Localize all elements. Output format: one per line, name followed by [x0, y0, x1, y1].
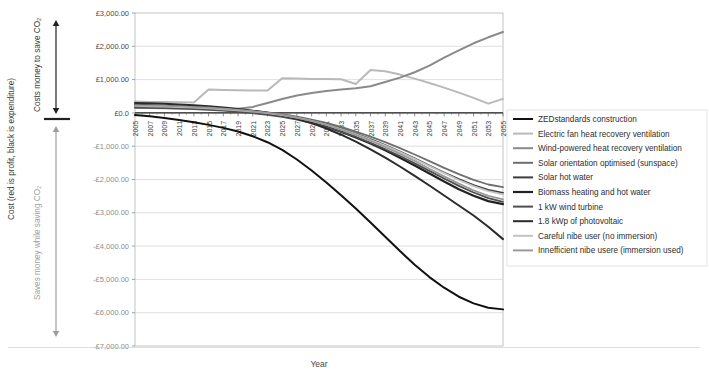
legend-label-4[interactable]: Solar hot water: [538, 173, 593, 182]
legend-label-5[interactable]: Biomass heating and hot water: [538, 188, 651, 197]
y-axis-tick-label: -£5,000.00: [93, 275, 129, 284]
down-zone-arrow-head-down: [53, 331, 60, 337]
x-axis-tick-label: 2053: [485, 121, 492, 137]
legend-label-0[interactable]: ZEDstandards construction: [538, 115, 637, 124]
x-axis-tick-label: 2051: [471, 121, 478, 137]
legend-label-9[interactable]: Innefficient nibe usere (immersion used): [538, 246, 684, 255]
y-axis-tick-label: -£7,000.00: [93, 342, 129, 351]
up-zone-arrow-head-down: [53, 108, 60, 114]
x-axis-tick-label: 2045: [426, 121, 433, 137]
lower-zone-label: Saves money while saving CO₂: [33, 186, 42, 300]
y-axis-tick-label: £0.0: [114, 109, 129, 118]
y-axis-tick-label: -£4,000.00: [93, 242, 129, 251]
x-axis-tick-label: 2055: [500, 121, 507, 137]
x-axis-tick-label: 2023: [264, 121, 271, 137]
legend-label-8[interactable]: Careful nibe user (no immersion): [538, 232, 657, 241]
x-axis-tick-label: 2025: [279, 121, 286, 137]
y-axis-tick-label: -£6,000.00: [93, 308, 129, 317]
upper-zone-label: Costs money to save CO₂: [33, 18, 42, 112]
x-axis-tick-label: 2043: [412, 121, 419, 137]
x-axis-tick-label: 2047: [441, 121, 448, 137]
chart-canvas: £3,000.00£2,000.00£1,000.00£0.0-£1,000.0…: [0, 0, 709, 380]
x-axis-tick-label: 2007: [147, 121, 154, 137]
legend-label-6[interactable]: 1 kW wind turbine: [538, 203, 604, 212]
x-axis-tick-label: 2009: [161, 121, 168, 137]
x-axis-tick-label: 2049: [456, 121, 463, 137]
x-axis-tick-label: 2041: [397, 121, 404, 137]
x-axis-tick-label: 2021: [250, 121, 257, 137]
chart-figure: £3,000.00£2,000.00£1,000.00£0.0-£1,000.0…: [0, 0, 709, 380]
legend-label-3[interactable]: Solar orientation optimised (sunspace): [538, 159, 678, 168]
x-axis-tick-label: 2039: [382, 121, 389, 137]
y-axis-tick-label: £2,000.00: [96, 42, 129, 51]
y-axis-tick-label: -£1,000.00: [93, 142, 129, 151]
x-axis-tick-label: 2011: [176, 121, 183, 136]
y-axis-tick-label: -£2,000.00: [93, 175, 129, 184]
legend-label-1[interactable]: Electric fan heat recovery ventilation: [538, 130, 670, 139]
x-axis-title: Year: [310, 359, 327, 369]
x-axis-tick-label: 2015: [206, 121, 213, 137]
x-axis-tick-label: 2005: [132, 121, 139, 137]
down-zone-arrow-head-up: [53, 126, 60, 132]
y-axis-tick-label: £1,000.00: [96, 75, 129, 84]
up-zone-arrow-head-up: [53, 20, 60, 26]
x-axis-tick-label: 2037: [368, 121, 375, 137]
x-axis-tick-label: 2027: [294, 121, 301, 137]
legend-label-2[interactable]: Wind-powered heat recovery ventilation: [538, 144, 682, 153]
x-axis-tick-label: 2019: [235, 121, 242, 137]
y-axis-tick-label: -£3,000.00: [93, 208, 129, 217]
legend-label-7[interactable]: 1.8 kWp of photovoltaic: [538, 217, 623, 226]
y-axis-tick-label: £3,000.00: [96, 9, 129, 18]
y-axis-outer-label: Cost (red is profit, black is expenditur…: [7, 78, 16, 220]
